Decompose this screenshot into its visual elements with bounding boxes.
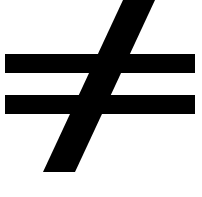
not-equal-sign-canvas: Not equal to sign bbox=[0, 0, 202, 197]
not-equal-sign-icon bbox=[0, 0, 202, 197]
